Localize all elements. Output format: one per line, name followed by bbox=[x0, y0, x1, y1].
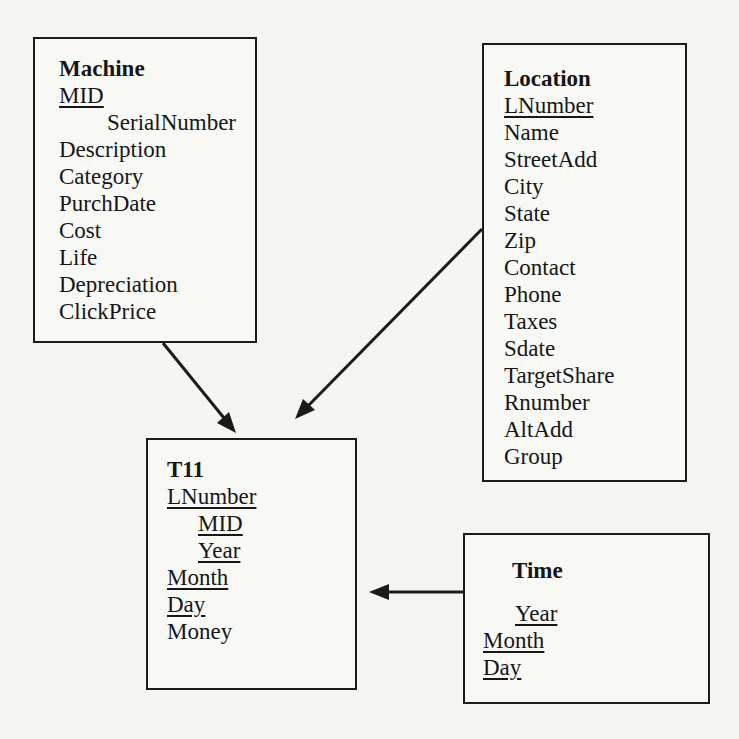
entity-machine: Machine MIDSerialNumberDescriptionCatego… bbox=[33, 37, 257, 343]
attribute-clickprice: ClickPrice bbox=[59, 298, 255, 325]
attribute-zip: Zip bbox=[504, 227, 685, 254]
attribute-depreciation: Depreciation bbox=[59, 271, 255, 298]
attribute-rnumber: Rnumber bbox=[504, 389, 685, 416]
attribute-month: Month bbox=[167, 564, 355, 591]
attribute-category: Category bbox=[59, 163, 255, 190]
attribute-day: Day bbox=[483, 654, 708, 681]
attribute-purchdate: PurchDate bbox=[59, 190, 255, 217]
arrow-location-to-t11 bbox=[295, 229, 482, 419]
attribute-mid: MID bbox=[167, 510, 355, 537]
entity-machine-title: Machine bbox=[59, 55, 255, 82]
attribute-mid: MID bbox=[59, 82, 255, 109]
arrow-time-to-t11 bbox=[369, 584, 463, 600]
attribute-month: Month bbox=[483, 627, 708, 654]
arrow-machine-to-t11 bbox=[163, 343, 236, 433]
entity-time-attributes: YearMonthDay bbox=[483, 600, 708, 681]
entity-t11-attributes: LNumberMIDYearMonthDayMoney bbox=[167, 483, 355, 645]
attribute-contact: Contact bbox=[504, 254, 685, 281]
attribute-altadd: AltAdd bbox=[504, 416, 685, 443]
attribute-city: City bbox=[504, 173, 685, 200]
attribute-cost: Cost bbox=[59, 217, 255, 244]
entity-time: Time YearMonthDay bbox=[463, 533, 710, 704]
entity-machine-attributes: MIDSerialNumberDescriptionCategoryPurchD… bbox=[59, 82, 255, 325]
attribute-money: Money bbox=[167, 618, 355, 645]
entity-t11-title: T11 bbox=[167, 456, 355, 483]
attribute-serialnumber: SerialNumber bbox=[59, 109, 255, 136]
entity-time-title: Time bbox=[483, 557, 708, 584]
attribute-description: Description bbox=[59, 136, 255, 163]
attribute-year: Year bbox=[167, 537, 355, 564]
attribute-day: Day bbox=[167, 591, 355, 618]
attribute-phone: Phone bbox=[504, 281, 685, 308]
attribute-life: Life bbox=[59, 244, 255, 271]
attribute-year: Year bbox=[483, 600, 708, 627]
attribute-streetadd: StreetAdd bbox=[504, 146, 685, 173]
attribute-lnumber: LNumber bbox=[504, 92, 685, 119]
attribute-group: Group bbox=[504, 443, 685, 470]
attribute-sdate: Sdate bbox=[504, 335, 685, 362]
entity-location: Location LNumberNameStreetAddCityStateZi… bbox=[482, 43, 687, 482]
attribute-state: State bbox=[504, 200, 685, 227]
attribute-targetshare: TargetShare bbox=[504, 362, 685, 389]
entity-t11: T11 LNumberMIDYearMonthDayMoney bbox=[146, 438, 357, 690]
attribute-name: Name bbox=[504, 119, 685, 146]
attribute-taxes: Taxes bbox=[504, 308, 685, 335]
entity-location-title: Location bbox=[504, 65, 685, 92]
diagram-canvas: Machine MIDSerialNumberDescriptionCatego… bbox=[0, 0, 739, 739]
entity-location-attributes: LNumberNameStreetAddCityStateZipContactP… bbox=[504, 92, 685, 470]
attribute-lnumber: LNumber bbox=[167, 483, 355, 510]
